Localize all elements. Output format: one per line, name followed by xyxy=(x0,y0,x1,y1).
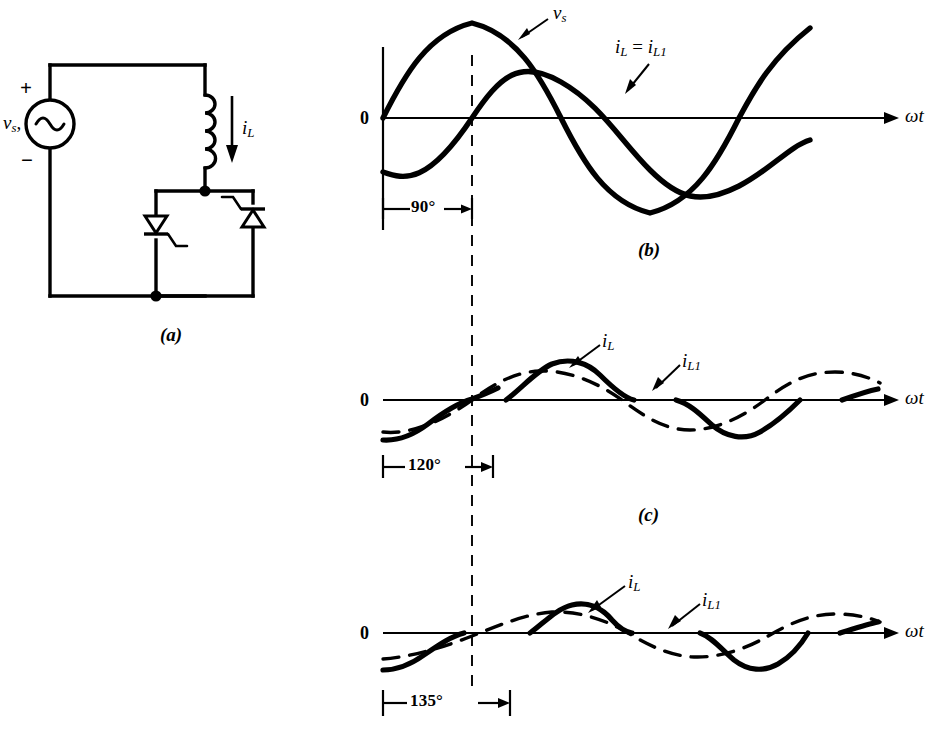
inductor-current-label: iL xyxy=(242,118,254,140)
panel-c-zero-label: 0 xyxy=(360,391,369,409)
panel-b-dimension-label: 90° xyxy=(411,198,435,215)
panel-b-il-pointer xyxy=(625,64,649,94)
panel-d-il-curve-label: iL xyxy=(628,572,640,594)
panel-c-x-axis-arrow xyxy=(884,394,899,406)
panel-b-il-curve-label: iL = iL1 xyxy=(615,37,667,59)
panel-d-dimension-label: 135° xyxy=(410,692,443,709)
panel-b-caption: (b) xyxy=(638,240,660,259)
panel-c-axis-label: ωt xyxy=(905,388,924,407)
figure-root: + − vs, iL (a) 0 ωt 90° vs iL = iL1 (b) … xyxy=(0,0,948,747)
panel-c-il1-curve-label: iL1 xyxy=(682,351,701,373)
panel-d-il1-pointer xyxy=(668,604,700,629)
inductor-coil-icon xyxy=(205,95,216,168)
panel-c-dimension-arrow xyxy=(481,462,493,472)
panel-d-dimension-arrow xyxy=(498,698,510,708)
panel-a-caption: (a) xyxy=(160,325,182,344)
panel-d-il-pointer xyxy=(588,586,625,613)
curve-il-solid-negative-burst xyxy=(700,633,808,669)
thyristor-icon xyxy=(144,216,187,246)
panel-b-zero-label: 0 xyxy=(360,109,369,127)
panel-d-dimension-135 xyxy=(383,690,510,716)
panel-b-vs-pointer xyxy=(518,19,548,40)
panel-c-caption: (c) xyxy=(638,505,659,524)
ac-source-sine-icon xyxy=(26,100,74,148)
circuit-diagram xyxy=(50,65,205,296)
figure-canvas xyxy=(0,0,948,747)
panel-d-axis-label: ωt xyxy=(905,621,924,640)
panel-b-dimension-arrow xyxy=(461,205,472,214)
panel-d-il1-curve-label: iL1 xyxy=(702,590,721,612)
junction-dot-icon xyxy=(150,290,161,301)
source-plus-sign: + xyxy=(20,78,32,99)
down-arrow-icon xyxy=(226,96,238,163)
thyristor-icon xyxy=(222,197,265,227)
panel-d-x-axis-arrow xyxy=(884,627,899,639)
curve-il-solid-tail xyxy=(840,622,878,633)
panel-c-dimension-label: 120° xyxy=(408,456,441,473)
panel-b-x-axis-arrow xyxy=(884,112,899,124)
panel-d-zero-label: 0 xyxy=(360,624,369,642)
junction-dot-icon xyxy=(199,185,210,196)
panel-c-il-curve-label: iL xyxy=(602,331,614,353)
panel-d xyxy=(383,586,899,716)
panel-b-vs-curve-label: vs xyxy=(553,3,566,25)
curve-il-solid-tail xyxy=(842,389,878,400)
panel-c-il1-pointer xyxy=(652,365,680,391)
panel-c xyxy=(383,345,899,478)
source-label: vs, xyxy=(3,113,21,135)
source-minus-sign: − xyxy=(21,150,33,171)
panel-b-axis-label: ωt xyxy=(905,106,924,125)
